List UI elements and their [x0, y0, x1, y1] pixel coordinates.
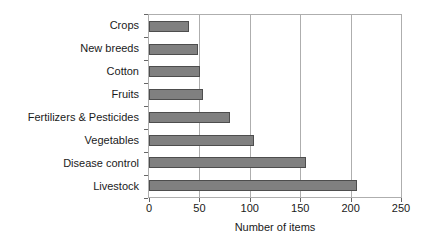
plot-area	[148, 14, 402, 198]
category-label-item: Livestock	[0, 175, 144, 198]
x-axis-title: Number of items	[148, 222, 402, 233]
category-label-text: Cotton	[107, 66, 139, 77]
category-label-text: Disease control	[63, 158, 139, 169]
bar-row	[149, 15, 401, 38]
x-tick-label: 50	[193, 203, 205, 214]
category-label-text: Fruits	[112, 89, 140, 100]
x-tick-label: 0	[146, 203, 152, 214]
category-label-item: Vegetables	[0, 129, 144, 152]
bar-fruits	[149, 89, 203, 100]
bar-row	[149, 152, 401, 175]
category-label-text: New breeds	[80, 43, 139, 54]
bar-livestock	[149, 180, 357, 191]
bar-cotton	[149, 66, 200, 77]
category-label-item: Cotton	[0, 60, 144, 83]
bar-fertilizers-pesticides	[149, 112, 230, 123]
bar-row	[149, 61, 401, 84]
bar-vegetables	[149, 135, 254, 146]
x-axis-tick-labels: 050100150200250	[148, 203, 402, 219]
category-label-text: Livestock	[93, 181, 139, 192]
bar-row	[149, 38, 401, 61]
bars-layer	[149, 15, 401, 197]
x-tick-label: 250	[392, 203, 410, 214]
bar-row	[149, 129, 401, 152]
x-tick-label: 150	[291, 203, 309, 214]
bar-row	[149, 174, 401, 197]
category-label-item: Disease control	[0, 152, 144, 175]
bar-row	[149, 83, 401, 106]
category-label-item: Fruits	[0, 83, 144, 106]
x-tick-label: 200	[341, 203, 359, 214]
category-axis: Crops New breeds Cotton Fruits Fertilize…	[0, 14, 144, 198]
category-label-text: Fertilizers & Pesticides	[28, 112, 139, 123]
category-label-text: Vegetables	[85, 135, 139, 146]
bar-chart: Crops New breeds Cotton Fruits Fertilize…	[0, 0, 429, 247]
bar-new-breeds	[149, 44, 198, 55]
category-label-item: New breeds	[0, 37, 144, 60]
bar-row	[149, 106, 401, 129]
x-tick-label: 100	[241, 203, 259, 214]
bar-disease-control	[149, 157, 306, 168]
category-label-item: Crops	[0, 14, 144, 37]
category-label-item: Fertilizers & Pesticides	[0, 106, 144, 129]
bar-crops	[149, 21, 189, 32]
category-label-text: Crops	[110, 20, 139, 31]
